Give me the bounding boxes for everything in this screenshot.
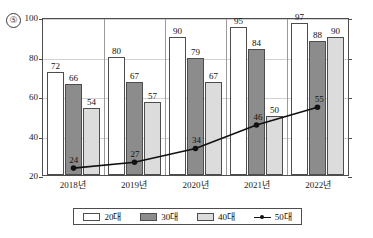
bar-column[interactable]: 80 [108, 19, 125, 175]
bar-value-label: 90 [331, 26, 340, 36]
line-value-label: 46 [253, 112, 262, 122]
bar-value-label: 84 [252, 38, 261, 48]
bar-column[interactable]: 79 [187, 19, 204, 175]
bar-value-label: 90 [173, 26, 182, 36]
bar[interactable] [169, 37, 186, 175]
y-axis-tick-label: 80 [8, 53, 38, 63]
bar-group: 958450 [226, 19, 287, 175]
bar[interactable] [309, 41, 326, 175]
plot-area: 726654806757907967958450978890 242734465… [42, 18, 349, 176]
x-axis-labels: 2018년2019년2020년2021년2022년 [42, 178, 349, 191]
bar-column[interactable]: 90 [169, 19, 186, 175]
y-axis-tick-mark [348, 59, 352, 60]
bar-column[interactable]: 67 [205, 19, 222, 175]
x-axis-label: 2018년 [42, 178, 103, 191]
bar-column[interactable]: 90 [327, 19, 344, 175]
bar[interactable] [327, 37, 344, 175]
legend-item[interactable]: 50대 [254, 210, 292, 223]
bar-groups: 726654806757907967958450978890 [43, 19, 348, 175]
bar[interactable] [187, 58, 204, 175]
bar-value-label: 54 [87, 97, 96, 107]
bar-value-label: 97 [295, 12, 304, 22]
bar-value-label: 67 [209, 71, 218, 81]
line-value-label: 24 [69, 155, 78, 165]
bar-group: 726654 [43, 19, 104, 175]
bar[interactable] [126, 82, 143, 175]
bar-column[interactable]: 57 [144, 19, 161, 175]
bar[interactable] [205, 82, 222, 175]
bar-column[interactable]: 50 [266, 19, 283, 175]
chart-page: ⑤ 726654806757907967958450978890 2427344… [0, 0, 373, 238]
bar[interactable] [291, 23, 308, 175]
y-axis-tick-label: 60 [8, 92, 38, 102]
legend-line-marker-icon [254, 213, 271, 221]
legend-swatch-icon [83, 213, 100, 221]
bar[interactable] [144, 102, 161, 175]
legend-item-label: 30대 [161, 210, 178, 223]
bar[interactable] [47, 72, 64, 175]
legend-item-label: 40대 [218, 210, 235, 223]
bar-column[interactable]: 84 [248, 19, 265, 175]
legend-item[interactable]: 20대 [83, 210, 121, 223]
bar-value-label: 88 [313, 30, 322, 40]
legend-item[interactable]: 30대 [140, 210, 178, 223]
bar-column[interactable]: 72 [47, 19, 64, 175]
bar-group: 907967 [165, 19, 226, 175]
bar-value-label: 57 [148, 91, 157, 101]
y-axis-tick-label: 40 [8, 132, 38, 142]
bar-group-bars: 958450 [226, 19, 287, 175]
bar-group-bars: 907967 [165, 19, 226, 175]
bar[interactable] [83, 108, 100, 175]
bar-column[interactable]: 54 [83, 19, 100, 175]
x-axis-label: 2021년 [226, 178, 287, 191]
y-axis-tick-mark [348, 138, 352, 139]
line-value-label: 55 [315, 94, 324, 104]
line-value-label: 34 [192, 135, 201, 145]
chart-legend: 20대30대40대50대 [73, 208, 302, 225]
y-axis-tick-mark [348, 19, 352, 20]
x-axis-label: 2022년 [288, 178, 349, 191]
line-value-label: 27 [131, 149, 140, 159]
bar-value-label: 50 [270, 105, 279, 115]
bar[interactable] [266, 116, 283, 175]
bar[interactable] [108, 57, 125, 176]
bar-value-label: 80 [112, 46, 121, 56]
bar-group-bars: 726654 [43, 19, 104, 175]
legend-swatch-icon [140, 213, 157, 221]
bar-value-label: 95 [234, 16, 243, 26]
bar-column[interactable]: 97 [291, 19, 308, 175]
legend-item-label: 50대 [275, 210, 292, 223]
bar-value-label: 72 [51, 61, 60, 71]
legend-item-label: 20대 [104, 210, 121, 223]
bar-value-label: 67 [130, 71, 139, 81]
y-axis-tick-mark [348, 98, 352, 99]
legend-swatch-icon [197, 213, 214, 221]
x-axis-label: 2019년 [103, 178, 164, 191]
legend-item[interactable]: 40대 [197, 210, 235, 223]
x-axis-label: 2020년 [165, 178, 226, 191]
bar-column[interactable]: 66 [65, 19, 82, 175]
bar-column[interactable]: 95 [230, 19, 247, 175]
y-axis-tick-label: 100 [8, 13, 38, 23]
bar-value-label: 66 [69, 73, 78, 83]
bar-value-label: 79 [191, 47, 200, 57]
y-axis-tick-label: 20 [8, 171, 38, 181]
bar[interactable] [230, 27, 247, 175]
